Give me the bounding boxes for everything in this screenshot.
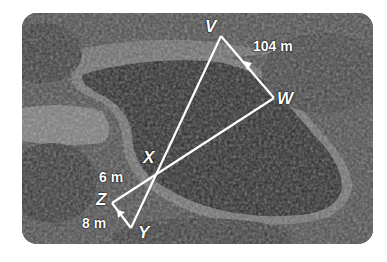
vertex-label-y: Y xyxy=(138,223,149,243)
segment-wz xyxy=(112,98,274,203)
vertex-label-x: X xyxy=(143,148,154,168)
vertex-label-z: Z xyxy=(96,190,106,210)
triangle-diagram xyxy=(0,0,387,262)
measurement-vw: 104 m xyxy=(253,38,293,54)
segment-zy xyxy=(112,203,131,228)
segment-vy xyxy=(131,36,221,228)
measurement-zy: 8 m xyxy=(82,215,106,231)
vertex-label-w: W xyxy=(277,89,293,109)
vertex-label-v: V xyxy=(205,17,216,37)
measurement-xz: 6 m xyxy=(99,169,123,185)
